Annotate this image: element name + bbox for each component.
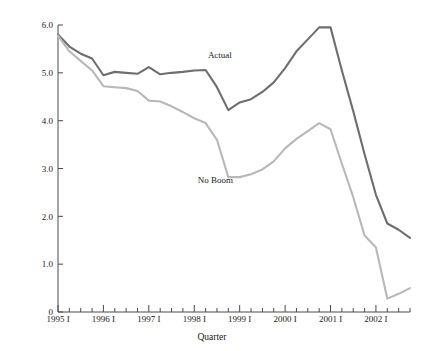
x-tick-label: 1998 I	[183, 314, 206, 324]
series-group	[58, 27, 410, 298]
y-tick-label: 3.0	[42, 164, 54, 174]
series-line-no-boom	[58, 36, 410, 299]
line-chart: 01.02.03.04.05.06.0 1995 I1996 I1997 I19…	[0, 0, 425, 351]
y-tick-label: 4.0	[42, 116, 54, 126]
chart-page: 01.02.03.04.05.06.0 1995 I1996 I1997 I19…	[0, 0, 425, 351]
series-label-no-boom: No Boom	[198, 175, 233, 185]
x-tick-label: 2000 I	[273, 314, 296, 324]
x-axis-group: 1995 I1996 I1997 I1998 I1999 I2000 I2001…	[46, 305, 410, 324]
y-axis-group: 01.02.03.04.05.06.0	[42, 20, 63, 317]
x-tick-label: 1996 I	[92, 314, 115, 324]
x-tick-label: 2001 I	[319, 314, 342, 324]
y-tick-label: 6.0	[42, 20, 54, 30]
y-tick-label: 5.0	[42, 68, 54, 78]
x-axis-title: Quarter	[197, 332, 227, 342]
x-tick-group: 1995 I1996 I1997 I1998 I1999 I2000 I2001…	[46, 305, 410, 324]
series-line-actual	[58, 27, 410, 237]
y-tick-label: 1.0	[42, 259, 54, 269]
x-tick-label: 1999 I	[228, 314, 251, 324]
y-tick-label: 2.0	[42, 212, 54, 222]
x-tick-label: 2002 I	[364, 314, 387, 324]
x-tick-label: 1997 I	[137, 314, 160, 324]
series-label-actual: Actual	[208, 50, 232, 60]
x-tick-label: 1995 I	[46, 314, 69, 324]
y-tick-group: 01.02.03.04.05.06.0	[42, 20, 63, 317]
